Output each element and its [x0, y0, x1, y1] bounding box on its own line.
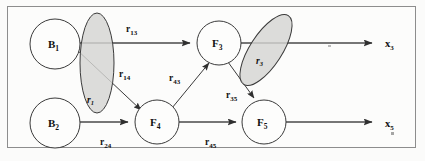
edge-label-r13: r13	[126, 24, 138, 37]
output-label-x3: x3	[385, 38, 394, 52]
ellipse-highlight-icon-r1	[80, 13, 114, 113]
figure-canvas: B1 B2 F3 F4 F5 r13 r14 r24 r43 r45 r35 r…	[0, 0, 425, 161]
edge-label-r14: r14	[119, 69, 131, 82]
scan-artifact-speck	[328, 45, 331, 47]
edge-label-r45: r45	[205, 137, 217, 150]
output-label-x5: x5	[385, 118, 394, 132]
edge-label-r24: r24	[100, 137, 112, 150]
ellipse-highlight-icon-r3	[230, 7, 301, 93]
edge-label-r43: r43	[169, 73, 181, 86]
flow-graph-svg: B1 B2 F3 F4 F5 r13 r14 r24 r43 r45 r35 r…	[0, 0, 425, 161]
scan-artifact-speck-2	[391, 132, 394, 135]
edge-label-r35: r35	[226, 90, 238, 103]
